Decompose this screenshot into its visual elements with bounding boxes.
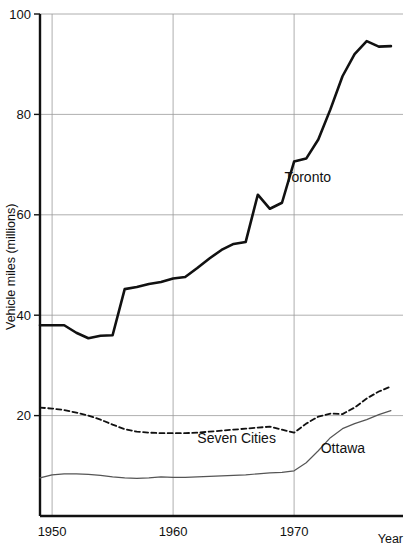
series-line-seven-cities [40,386,391,433]
x-axis-title: Year [378,532,403,546]
x-tick-label: 1950 [38,524,67,539]
series-label-ottawa: Ottawa [321,440,366,456]
x-tick-label: 1970 [280,524,309,539]
series-labels-group: TorontoSeven CitiesOttawa [197,169,365,456]
series-label-seven-cities: Seven Cities [197,430,276,446]
series-line-toronto [40,41,391,338]
y-tick-label: 40 [17,308,31,323]
series-label-toronto: Toronto [284,169,331,185]
chart-canvas: 20406080100 195019601970 TorontoSeven Ci… [0,0,405,548]
y-axis-title: Vehicle miles (millions) [4,204,18,330]
line-chart: 20406080100 195019601970 TorontoSeven Ci… [0,0,405,548]
y-tick-label: 20 [17,408,31,423]
x-axis-ticks: 195019601970 [38,524,309,539]
y-tick-label: 80 [17,107,31,122]
y-tick-label: 100 [9,7,31,22]
x-tick-label: 1960 [159,524,188,539]
y-tick-label: 60 [17,207,31,222]
data-series-group [40,41,391,478]
